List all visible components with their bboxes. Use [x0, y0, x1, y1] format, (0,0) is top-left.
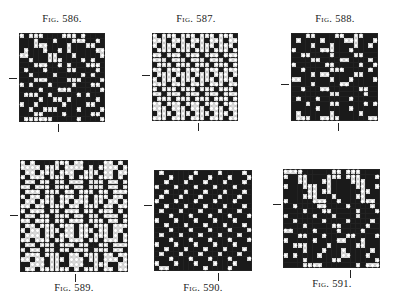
empty-circle	[43, 78, 47, 82]
filled-square	[359, 82, 363, 86]
empty-circle	[219, 111, 223, 115]
filled-square	[194, 257, 198, 261]
filled-square	[153, 48, 157, 52]
empty-circle	[20, 34, 24, 38]
empty-circle	[366, 224, 370, 228]
empty-circle	[123, 224, 127, 228]
empty-circle	[113, 185, 117, 189]
filled-square	[96, 73, 100, 77]
empty-circle	[237, 233, 241, 237]
filled-square	[100, 34, 104, 38]
filled-square	[293, 263, 297, 267]
filled-square	[325, 43, 329, 47]
filled-square	[69, 185, 73, 189]
filled-square	[298, 209, 302, 213]
empty-circle	[233, 218, 237, 222]
filled-square	[189, 242, 193, 246]
empty-circle	[35, 219, 39, 223]
empty-circle	[94, 257, 98, 261]
empty-circle	[48, 107, 52, 111]
filled-square	[74, 224, 78, 228]
empty-circle	[320, 87, 324, 91]
filled-square	[344, 68, 348, 72]
empty-circle	[210, 38, 214, 42]
filled-square	[224, 38, 228, 42]
empty-circle	[60, 204, 64, 208]
empty-circle	[123, 219, 127, 223]
empty-circle	[96, 97, 100, 101]
filled-square	[53, 68, 57, 72]
filled-square	[53, 48, 57, 52]
empty-circle	[237, 252, 241, 256]
empty-circle	[89, 238, 93, 242]
filled-square	[20, 107, 24, 111]
filled-square	[203, 209, 207, 213]
filled-square	[108, 233, 112, 237]
filled-square	[361, 248, 365, 252]
empty-circle	[104, 170, 108, 174]
empty-circle	[25, 204, 29, 208]
empty-circle	[224, 72, 228, 76]
empty-circle	[79, 238, 83, 242]
filled-square	[155, 195, 159, 199]
filled-square	[359, 43, 363, 47]
empty-circle	[45, 170, 49, 174]
empty-circle	[164, 190, 168, 194]
filled-square	[375, 204, 379, 208]
filled-square	[155, 223, 159, 227]
filled-square	[325, 77, 329, 81]
empty-circle	[65, 248, 69, 252]
empty-circle	[153, 82, 157, 86]
empty-circle	[337, 175, 341, 179]
empty-circle	[74, 238, 78, 242]
filled-square	[341, 204, 345, 208]
filled-square	[94, 243, 98, 247]
filled-square	[67, 83, 71, 87]
filled-square	[337, 204, 341, 208]
filled-square	[218, 238, 222, 242]
empty-circle	[219, 106, 223, 110]
empty-circle	[194, 171, 198, 175]
empty-circle	[58, 48, 62, 52]
empty-circle	[53, 39, 57, 43]
filled-square	[351, 248, 355, 252]
filled-square	[184, 199, 188, 203]
filled-square	[361, 209, 365, 213]
empty-circle	[162, 63, 166, 67]
empty-circle	[354, 43, 358, 47]
empty-circle	[104, 224, 108, 228]
empty-circle	[284, 175, 288, 179]
empty-circle	[123, 180, 127, 184]
left-tick-mark	[142, 75, 150, 76]
filled-square	[159, 228, 163, 232]
filled-square	[198, 228, 202, 232]
filled-square	[237, 199, 241, 203]
filled-square	[337, 263, 341, 267]
empty-circle	[30, 243, 34, 247]
empty-circle	[39, 78, 43, 82]
empty-circle	[346, 170, 350, 174]
empty-circle	[91, 83, 95, 87]
filled-square	[94, 209, 98, 213]
filled-square	[224, 58, 228, 62]
filled-square	[247, 204, 251, 208]
empty-circle	[34, 34, 38, 38]
empty-circle	[219, 97, 223, 101]
filled-square	[72, 43, 76, 47]
empty-circle	[366, 253, 370, 257]
filled-square	[58, 68, 62, 72]
filled-square	[337, 189, 341, 193]
empty-circle	[189, 214, 193, 218]
empty-circle	[60, 214, 64, 218]
filled-square	[340, 102, 344, 106]
filled-square	[344, 72, 348, 76]
empty-circle	[104, 262, 108, 266]
filled-square	[53, 43, 57, 47]
filled-square	[159, 223, 163, 227]
filled-square	[164, 228, 168, 232]
filled-square	[293, 194, 297, 198]
empty-circle	[313, 263, 317, 267]
empty-circle	[359, 63, 363, 67]
empty-circle	[24, 117, 28, 121]
empty-circle	[184, 223, 188, 227]
